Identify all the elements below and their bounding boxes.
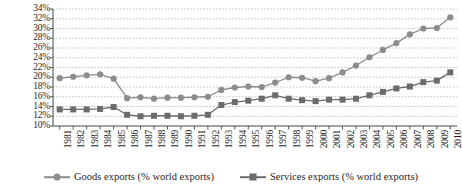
chart-legend: Goods exports (% world exports)Services … bbox=[0, 167, 462, 187]
x-axis-tick-label: 2006 bbox=[400, 130, 410, 148]
x-axis-tick-label: 1999 bbox=[306, 130, 316, 148]
legend-item[interactable]: Goods exports (% world exports) bbox=[44, 171, 214, 183]
x-axis-tick-label: 2003 bbox=[360, 130, 370, 148]
x-axis-tick-label: 1998 bbox=[293, 130, 303, 148]
x-axis-tick-label: 1995 bbox=[252, 130, 262, 148]
x-axis-tick-label: 1993 bbox=[225, 130, 235, 148]
x-axis-tick-label: 2000 bbox=[320, 130, 330, 148]
x-axis-tick-label: 1992 bbox=[212, 130, 222, 148]
x-axis-tick-label: 1989 bbox=[171, 130, 181, 148]
x-axis-tick-label: 2004 bbox=[373, 130, 383, 148]
x-axis-tick-label: 2002 bbox=[347, 130, 357, 148]
x-axis-tick-label: 2009 bbox=[441, 130, 451, 148]
x-axis-tick-label: 1988 bbox=[158, 130, 168, 148]
chart-container: 34%32%30%28%26%24%22%20%18%16%14%12%10% … bbox=[0, 0, 462, 189]
x-axis-tick-label: 1987 bbox=[145, 130, 155, 148]
square-marker-icon bbox=[240, 171, 266, 183]
x-axis-tick-label: 1982 bbox=[77, 130, 87, 148]
x-axis-tick-label: 2010 bbox=[454, 130, 462, 148]
x-axis-tick-label: 1981 bbox=[64, 130, 74, 148]
x-axis: 1981198219831984198519861987198819891990… bbox=[53, 130, 457, 164]
x-axis-tick-label: 2008 bbox=[427, 130, 437, 148]
x-axis-tick-label: 2005 bbox=[387, 130, 397, 148]
x-axis-tick-label: 1986 bbox=[131, 130, 141, 148]
x-axis-tick-label: 1983 bbox=[91, 130, 101, 148]
legend-label: Goods exports (% world exports) bbox=[74, 172, 214, 183]
x-axis-tick-label: 1985 bbox=[118, 130, 128, 148]
x-axis-tick-label: 1997 bbox=[279, 130, 289, 148]
x-axis-tick-label: 2001 bbox=[333, 130, 343, 148]
circle-marker-icon bbox=[44, 171, 70, 183]
legend-item[interactable]: Services exports (% world exports) bbox=[240, 171, 418, 183]
x-axis-tick-label: 1990 bbox=[185, 130, 195, 148]
x-axis-tick-label: 1991 bbox=[198, 130, 208, 148]
x-axis-tick-label: 2007 bbox=[414, 130, 424, 148]
x-axis-tick-label: 1994 bbox=[239, 130, 249, 148]
x-axis-tick-label: 1984 bbox=[104, 130, 114, 148]
x-axis-tick-label: 1996 bbox=[266, 130, 276, 148]
legend-label: Services exports (% world exports) bbox=[270, 172, 418, 183]
